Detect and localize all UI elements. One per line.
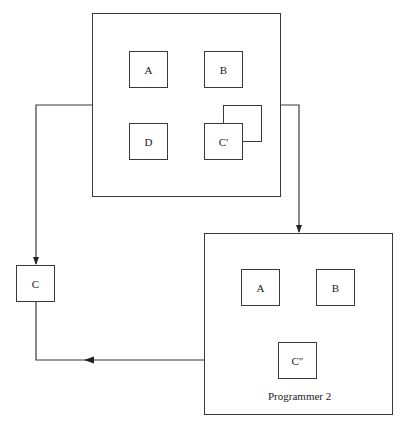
edge-c-to-bottom	[36, 302, 204, 360]
edge-top-to-bottom	[280, 105, 299, 232]
module-b-bottom: B	[316, 269, 355, 306]
programmer-2-label: Programmer 2	[268, 390, 331, 402]
module-c-double-prime: C″	[278, 342, 317, 379]
arrowhead-left	[84, 357, 94, 364]
module-label: B	[332, 282, 339, 294]
module-label: C″	[292, 355, 304, 367]
module-label: C	[32, 278, 39, 290]
module-c-external: C	[16, 265, 55, 302]
module-a-top: A	[129, 51, 168, 88]
module-b-top: B	[204, 51, 243, 88]
bottom-container-programmer-2	[204, 233, 393, 415]
module-label: B	[220, 64, 227, 76]
edge-top-to-c	[36, 105, 92, 264]
module-label: D	[145, 136, 153, 148]
module-label: A	[257, 282, 265, 294]
module-d-top: D	[129, 123, 168, 160]
module-c-prime: C′	[204, 123, 243, 160]
module-a-bottom: A	[241, 269, 280, 306]
module-label: C′	[219, 136, 229, 148]
module-label: A	[145, 64, 153, 76]
